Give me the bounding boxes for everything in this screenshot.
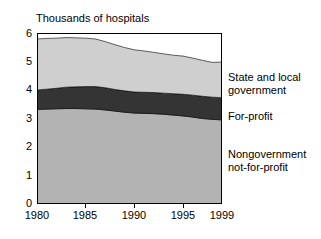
legend-state-local-line2: government [228,84,301,97]
legend-state-local-line1: State and local [228,71,301,84]
stacked-area-svg [37,33,222,204]
legend-label-for-profit: For-profit [228,110,273,123]
legend-nongov-line2: not-for-profit [228,161,306,174]
xtick-mark-1990 [134,204,135,208]
ytick-label-0: 0 [4,198,32,209]
legend-nongov-line1: Nongovernment [228,148,306,161]
ytick-label-2: 2 [4,141,32,152]
xtick-label-1985: 1985 [65,210,105,221]
ytick-label-4: 4 [4,84,32,95]
ytick-label-3: 3 [4,113,32,124]
xtick-label-1995: 1995 [163,210,203,221]
hospital-ownership-area-chart: Thousands of hospitals 0 1 2 3 4 5 6 198… [0,0,321,239]
legend-label-nongovernment-not-for-profit: Nongovernment not-for-profit [228,148,306,174]
xtick-mark-1995 [183,204,184,208]
xtick-label-1999: 1999 [202,210,242,221]
plot-area [37,33,222,204]
legend-label-state-and-local-government: State and local government [228,71,301,97]
area-series-nongovernment-not-for-profit [37,109,222,204]
chart-axis-title: Thousands of hospitals [36,12,149,25]
xtick-mark-1985 [85,204,86,208]
ytick-label-5: 5 [4,56,32,67]
ytick-label-1: 1 [4,170,32,181]
ytick-label-6: 6 [4,28,32,39]
xtick-label-1980: 1980 [17,210,57,221]
xtick-label-1990: 1990 [114,210,154,221]
